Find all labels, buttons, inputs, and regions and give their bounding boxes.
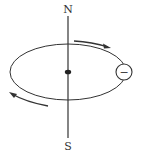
bottom-arrow-icon: [12, 94, 48, 106]
bottom-arrowhead-icon: [9, 92, 17, 98]
orbit-diagram: N S −: [0, 0, 141, 158]
top-arrowhead-icon: [103, 44, 111, 49]
nucleus-dot: [65, 70, 71, 75]
south-label: S: [64, 140, 72, 153]
electron-charge: −: [119, 66, 128, 79]
north-label: N: [63, 3, 73, 16]
